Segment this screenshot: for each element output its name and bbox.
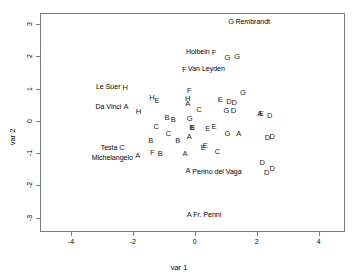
- data-point: E: [190, 124, 195, 132]
- x-axis-title: var 1: [0, 263, 358, 272]
- y-tick-label: 1: [26, 84, 33, 94]
- y-tick-mark: [36, 56, 40, 57]
- y-tick-label: -2: [26, 180, 33, 190]
- data-point: B: [164, 114, 169, 122]
- point-annotation-label: Michelangelo: [92, 153, 133, 160]
- data-point: C: [196, 106, 201, 114]
- x-tick-label: -4: [68, 238, 74, 245]
- data-point: A: [182, 150, 187, 158]
- data-point: D: [270, 133, 275, 141]
- x-tick-label: 4: [317, 238, 321, 245]
- data-point: G: [240, 89, 246, 97]
- y-tick-mark: [36, 24, 40, 25]
- data-point: C: [119, 144, 124, 152]
- point-annotation-label: Rembrandt: [235, 18, 270, 25]
- data-point: D: [264, 169, 269, 177]
- data-point: E: [218, 97, 223, 105]
- point-annotation-label: Perino del Vaga: [192, 168, 241, 175]
- data-point: B: [171, 116, 176, 124]
- point-annotation-label: Fr. Penni: [193, 210, 221, 217]
- data-point: G: [228, 18, 234, 26]
- y-tick-mark: [36, 218, 40, 219]
- data-point: B: [175, 137, 180, 145]
- point-annotation-label: Holbein: [186, 48, 210, 55]
- data-point: E: [212, 124, 217, 132]
- data-point: A: [236, 131, 241, 139]
- y-tick-mark: [36, 89, 40, 90]
- data-point: H: [136, 108, 141, 116]
- data-point: A: [187, 133, 192, 141]
- data-point: H: [122, 84, 127, 92]
- y-axis-title: var 2: [8, 129, 17, 146]
- data-point: A: [185, 167, 190, 175]
- data-point: G: [234, 54, 240, 62]
- data-point: A: [135, 153, 140, 161]
- x-tick-mark: [257, 232, 258, 236]
- point-annotation-label: Da Vinci: [95, 103, 121, 110]
- x-tick-mark: [133, 232, 134, 236]
- data-point: F: [150, 149, 155, 157]
- x-tick-mark: [319, 232, 320, 236]
- x-tick-mark: [71, 232, 72, 236]
- scatter-plot-figure: -4-2024 -3-2-10123 GFGGFHFGHEHEDDAACHGDA…: [0, 0, 358, 274]
- data-point: F: [212, 49, 217, 57]
- data-point: D: [231, 99, 236, 107]
- y-tick-mark: [36, 153, 40, 154]
- data-point: G: [224, 131, 230, 139]
- x-tick-label: 0: [193, 238, 197, 245]
- data-point: B: [158, 150, 163, 158]
- data-point: G: [224, 54, 230, 62]
- point-annotation-label: Le Suer: [96, 83, 121, 90]
- y-tick-label: 0: [26, 116, 33, 126]
- data-point: F: [182, 66, 187, 74]
- data-point: D: [267, 112, 272, 120]
- y-tick-mark: [36, 185, 40, 186]
- data-point: B: [148, 137, 153, 145]
- data-point: C: [153, 124, 158, 132]
- data-point: D: [231, 107, 236, 115]
- data-point: G: [187, 115, 193, 123]
- data-point: E: [155, 97, 160, 105]
- point-annotation-label: Testa: [101, 143, 118, 150]
- data-point: D: [260, 160, 265, 168]
- data-point: E: [203, 143, 208, 151]
- y-tick-label: -3: [26, 213, 33, 223]
- data-point: A: [185, 100, 190, 108]
- y-tick-label: 3: [26, 19, 33, 29]
- data-point: A: [187, 212, 192, 220]
- data-point: E: [205, 126, 210, 134]
- data-point: C: [215, 148, 220, 156]
- x-tick-label: -2: [130, 238, 136, 245]
- y-tick-mark: [36, 121, 40, 122]
- data-point: E: [259, 110, 264, 118]
- data-point: A: [124, 103, 129, 111]
- data-point: D: [270, 165, 275, 173]
- x-tick-label: 2: [255, 238, 259, 245]
- data-point: C: [166, 130, 171, 138]
- y-tick-label: 2: [26, 51, 33, 61]
- point-annotation-label: Van Leyden: [188, 65, 225, 72]
- y-tick-label: -1: [26, 148, 33, 158]
- x-tick-mark: [195, 232, 196, 236]
- data-point: G: [223, 107, 229, 115]
